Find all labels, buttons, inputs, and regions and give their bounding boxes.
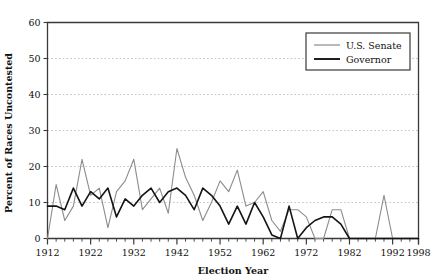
y-tick-label-50: 50 [28, 53, 40, 64]
x-tick-label-1952: 1952 [208, 247, 232, 258]
uncontested-races-line-chart: 0102030405060 19121922193219421952196219… [0, 0, 437, 280]
chart-container: 0102030405060 19121922193219421952196219… [0, 0, 437, 280]
x-tick-label-1962: 1962 [251, 247, 275, 258]
x-tick-label-1922: 1922 [79, 247, 103, 258]
x-tick-label-1932: 1932 [122, 247, 146, 258]
y-tick-label-20: 20 [28, 161, 40, 172]
legend-label-governor: Governor [346, 54, 392, 65]
x-tick-label-1998: 1998 [406, 247, 430, 258]
x-tick-label-1942: 1942 [165, 247, 189, 258]
y-tick-label-40: 40 [28, 89, 40, 100]
x-axis-title: Election Year [198, 265, 269, 276]
y-tick-label-0: 0 [34, 233, 40, 244]
y-tick-label-30: 30 [28, 125, 40, 136]
x-tick-label-1912: 1912 [35, 247, 59, 258]
x-tick-label-1972: 1972 [294, 247, 318, 258]
x-tick-label-1992: 1992 [381, 247, 405, 258]
x-tick-label-1982: 1982 [337, 247, 361, 258]
legend-label-us-senate: U.S. Senate [346, 40, 402, 51]
y-axis-title: Percent of Races Uncontested [3, 53, 14, 213]
y-tick-label-60: 60 [28, 17, 40, 28]
chart-legend: U.S. Senate Governor [306, 33, 410, 70]
y-tick-label-10: 10 [28, 197, 40, 208]
